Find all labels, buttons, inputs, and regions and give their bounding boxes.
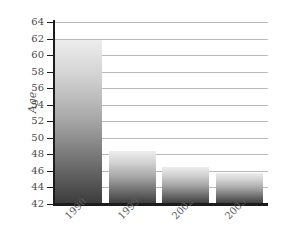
y-axis-tick-mark <box>47 187 54 188</box>
y-axis-tick-label: 48 <box>14 149 44 159</box>
y-axis-tick-label: 46 <box>14 166 44 176</box>
y-axis-tick-mark <box>47 138 54 139</box>
y-axis-line <box>53 20 55 206</box>
y-axis-tick-label: 44 <box>14 182 44 192</box>
y-axis-tick-label: 50 <box>14 133 44 143</box>
y-axis-tick-mark <box>47 154 54 155</box>
bar-1990 <box>55 40 102 204</box>
y-axis-tick-mark <box>47 22 54 23</box>
y-axis-tick-label: 62 <box>14 34 44 44</box>
y-axis-tick-mark <box>47 39 54 40</box>
y-axis-tick-mark <box>47 55 54 56</box>
y-axis-tick-mark <box>47 88 54 89</box>
y-axis-tick-label: 54 <box>14 100 44 110</box>
plot-area <box>54 22 268 204</box>
y-axis-tick-mark <box>47 204 54 205</box>
y-axis-tick-label: 58 <box>14 67 44 77</box>
y-axis-tick-label: 56 <box>14 83 44 93</box>
y-axis-tick-label: 64 <box>14 17 44 27</box>
y-axis-tick-mark <box>47 72 54 73</box>
gridline <box>54 22 268 23</box>
y-axis-tick-label: 52 <box>14 116 44 126</box>
y-axis-tick-label: 42 <box>14 199 44 209</box>
y-axis-tick-mark <box>47 121 54 122</box>
y-axis-tick-mark <box>47 105 54 106</box>
bar-chart: Age 646260585654525048464442 19901999200… <box>0 0 282 246</box>
y-axis-tick-label: 60 <box>14 50 44 60</box>
y-axis-tick-mark <box>47 171 54 172</box>
